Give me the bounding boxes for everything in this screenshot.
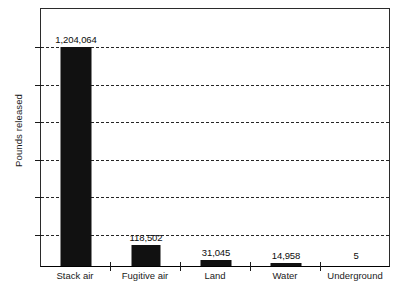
y-axis-title-label: Pounds released (13, 94, 24, 167)
bar-value-fugitive-air: 118,502 (130, 232, 163, 243)
plot-area: 1,204,064 118,502 31,045 14,958 5 (40, 8, 390, 267)
bar-value-stack-air: 1,204,064 (55, 34, 96, 45)
x-axis-label-stack-air: Stack air (40, 270, 110, 281)
bars-layer: 1,204,064 118,502 31,045 14,958 5 (41, 9, 389, 266)
bar-chart-figure: Pounds released 1,204,064 118,502 (0, 0, 407, 304)
bar-fugitive-air[interactable] (132, 245, 161, 266)
y-axis-title: Pounds released (0, 0, 36, 260)
x-axis-label-fugitive-air: Fugitive air (110, 270, 180, 281)
bar-group-stack-air: 1,204,064 (41, 9, 111, 266)
x-axis-label-water: Water (250, 270, 320, 281)
bar-land[interactable] (201, 260, 232, 266)
bar-group-land: 31,045 (181, 9, 251, 266)
bar-group-underground: 5 (321, 9, 391, 266)
bar-value-land: 31,045 (202, 247, 230, 258)
bar-value-water: 14,958 (272, 250, 300, 261)
bar-water[interactable] (271, 263, 302, 266)
bar-group-water: 14,958 (251, 9, 321, 266)
x-axis-label-land: Land (180, 270, 250, 281)
bar-group-fugitive-air: 118,502 (111, 9, 181, 266)
bar-value-underground: 5 (353, 250, 358, 261)
bar-stack-air[interactable] (61, 47, 92, 266)
x-axis-label-underground: Underground (320, 270, 390, 281)
x-axis-labels: Stack air Fugitive air Land Water Underg… (40, 270, 390, 288)
